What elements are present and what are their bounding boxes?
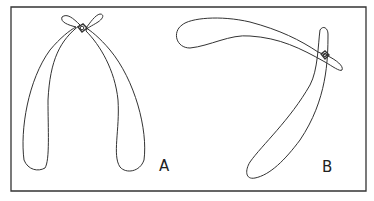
panel-label-a: A [159, 159, 169, 174]
panel-b-shape [176, 18, 342, 178]
panel-a-shape [23, 14, 145, 171]
panel-label-b: B [322, 160, 332, 175]
diagram-canvas [0, 0, 374, 201]
figure: A B [0, 0, 374, 201]
